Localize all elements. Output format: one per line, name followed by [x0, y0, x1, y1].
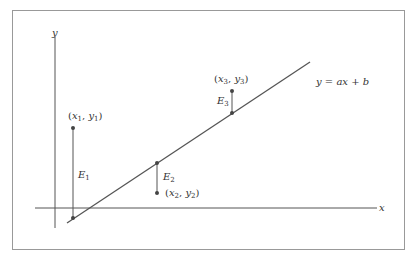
residual-e3-label: E3 — [216, 95, 229, 108]
x-axis-label: x — [379, 202, 385, 213]
y-axis-label: y — [51, 27, 58, 38]
data-point-2 — [155, 191, 159, 195]
regression-line — [67, 62, 310, 223]
fit-point-3 — [230, 111, 234, 115]
residual-e2-label: E2 — [162, 171, 175, 184]
fit-point-2 — [155, 161, 159, 165]
point-2-label: (x2, y2) — [165, 187, 200, 200]
data-point-3 — [230, 89, 234, 93]
point-3-label: (x3, y3) — [214, 73, 249, 86]
regression-diagram: y x y = ax + b (x1, y1) E1 E2 (x2, y2) (… — [0, 0, 409, 258]
line-equation-label: y = ax + b — [315, 76, 369, 87]
fit-point-1 — [71, 216, 75, 220]
data-point-1 — [71, 126, 75, 130]
residual-e1-label: E1 — [77, 169, 90, 182]
point-1-label: (x1, y1) — [68, 110, 103, 123]
